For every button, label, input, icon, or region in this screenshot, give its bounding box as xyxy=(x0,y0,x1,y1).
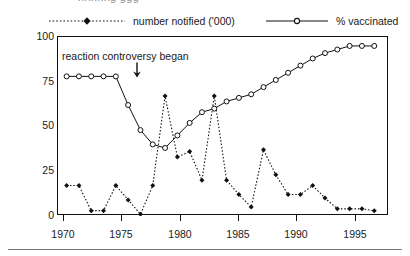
data-point-marker xyxy=(359,43,364,48)
data-point-marker xyxy=(175,154,180,159)
x-tick-label: 1990 xyxy=(276,228,316,240)
clipped-header-label: nnnnng ggg xyxy=(78,0,139,3)
data-point-marker xyxy=(126,197,131,202)
x-tick-mark xyxy=(63,215,64,221)
down-arrow-icon xyxy=(130,62,144,78)
x-tick-mark xyxy=(180,215,181,221)
data-point-marker xyxy=(286,70,291,75)
data-point-marker xyxy=(273,77,278,82)
chart-canvas xyxy=(58,37,389,216)
data-point-marker xyxy=(64,74,69,79)
x-tick-label: 1975 xyxy=(101,228,141,240)
x-axis: 1970 1975 1980 1985 1990 1995 xyxy=(0,215,410,245)
data-point-marker xyxy=(249,205,254,210)
data-point-marker xyxy=(64,183,69,188)
legend-swatch-notified-icon xyxy=(48,15,126,27)
data-point-marker xyxy=(101,208,106,213)
data-point-marker xyxy=(310,56,315,61)
data-point-marker xyxy=(76,183,81,188)
data-point-marker xyxy=(150,183,155,188)
data-point-marker xyxy=(298,63,303,68)
data-point-marker xyxy=(76,74,81,79)
data-point-marker xyxy=(187,120,192,125)
chart-legend: number notified ('000) % vaccinated xyxy=(0,13,410,29)
x-tick-label: 1985 xyxy=(218,228,258,240)
y-tick-label: 100 xyxy=(20,31,54,41)
x-tick-mark xyxy=(296,215,297,221)
data-point-marker xyxy=(224,178,229,183)
data-point-marker xyxy=(249,92,254,97)
data-point-marker xyxy=(150,142,155,147)
data-point-marker xyxy=(199,110,204,115)
x-tick-mark xyxy=(121,215,122,221)
data-point-marker xyxy=(335,47,340,52)
y-tick-label: 25 xyxy=(20,165,54,175)
x-tick-mark xyxy=(238,215,239,221)
data-point-marker xyxy=(224,99,229,104)
data-point-marker xyxy=(261,147,266,152)
data-point-marker xyxy=(89,208,94,213)
data-point-marker xyxy=(163,145,168,150)
data-point-marker xyxy=(89,74,94,79)
x-tick-mark xyxy=(355,215,356,221)
data-point-marker xyxy=(113,74,118,79)
legend-swatch-vaccinated-icon xyxy=(265,15,329,27)
data-point-marker xyxy=(347,206,352,211)
clipped-header-text: nnnnng ggg xyxy=(0,0,410,9)
legend-item-notified: number notified ('000) xyxy=(48,13,235,29)
data-point-marker xyxy=(199,178,204,183)
data-point-marker xyxy=(372,208,377,213)
data-point-marker xyxy=(212,94,217,99)
footer-rule xyxy=(8,249,402,250)
data-point-marker xyxy=(101,74,106,79)
x-tick-label: 1970 xyxy=(43,228,83,240)
data-point-marker xyxy=(372,43,377,48)
data-point-marker xyxy=(236,95,241,100)
x-tick-label: 1995 xyxy=(335,228,375,240)
y-tick-label: 75 xyxy=(20,76,54,86)
legend-label-vaccinated: % vaccinated xyxy=(336,13,398,29)
data-point-marker xyxy=(175,133,180,138)
data-point-marker xyxy=(126,103,131,108)
y-tick-label: 50 xyxy=(20,120,54,130)
data-point-marker xyxy=(212,106,217,111)
data-point-marker xyxy=(323,51,328,56)
data-point-marker xyxy=(286,192,291,197)
data-point-marker xyxy=(261,85,266,90)
data-point-marker xyxy=(359,206,364,211)
legend-item-vaccinated: % vaccinated xyxy=(265,13,398,29)
series-line xyxy=(67,96,375,214)
data-point-marker xyxy=(347,43,352,48)
data-point-marker xyxy=(187,149,192,154)
data-point-marker xyxy=(138,128,143,133)
data-point-marker xyxy=(163,94,168,99)
plot-area xyxy=(57,36,388,215)
series-notified xyxy=(64,94,377,216)
data-point-marker xyxy=(273,172,278,177)
legend-label-notified: number notified ('000) xyxy=(133,13,235,29)
annotation-text: reaction controversy began xyxy=(62,50,189,62)
x-tick-label: 1980 xyxy=(160,228,200,240)
